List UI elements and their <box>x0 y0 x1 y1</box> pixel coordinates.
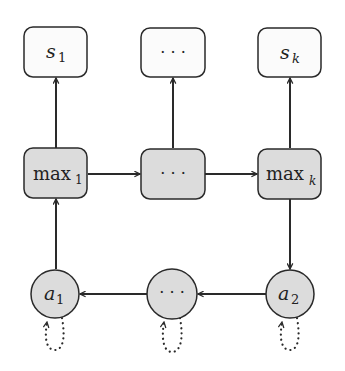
self-loop-a2 <box>281 318 299 350</box>
node-a2: a 2 <box>266 270 314 318</box>
diagram-canvas: s 1 · · · s k max 1 · · · max k a 1 · · … <box>0 0 345 371</box>
node-a1-sub: 1 <box>56 292 64 307</box>
self-loop-a1 <box>46 318 64 350</box>
node-maxk-sub: k <box>309 174 316 188</box>
node-a1-base: a <box>44 282 55 304</box>
node-max-dots-label: · · · <box>160 164 185 183</box>
node-sk-sub: k <box>292 51 300 66</box>
node-s1-sub: 1 <box>58 50 66 65</box>
self-loop-adots <box>163 318 182 352</box>
node-max1-sub: 1 <box>75 173 83 187</box>
node-s1-base: s <box>46 40 56 62</box>
node-max1-base: max <box>33 163 71 184</box>
node-a1: a 1 <box>31 270 79 318</box>
node-a2-base: a <box>278 282 289 304</box>
node-s1: s 1 <box>24 27 87 77</box>
node-a-dots: · · · <box>147 269 197 319</box>
node-sk-base: s <box>280 41 290 63</box>
node-sk: s k <box>258 28 321 77</box>
node-maxk: max k <box>258 149 321 199</box>
node-s-dots: · · · <box>141 28 205 77</box>
node-s-dots-label: · · · <box>160 43 185 62</box>
node-max1: max 1 <box>24 148 87 198</box>
node-maxk-base: max <box>266 163 304 184</box>
node-max-dots: · · · <box>141 149 205 199</box>
node-a-dots-label: · · · <box>159 283 184 302</box>
node-a2-sub: 2 <box>291 292 299 307</box>
